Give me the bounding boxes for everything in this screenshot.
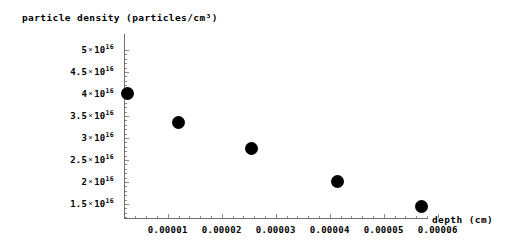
data-point bbox=[415, 200, 428, 213]
particle-density-plot: particle density (particles/cm³) depth (… bbox=[0, 0, 506, 248]
data-point bbox=[121, 87, 134, 100]
plot-data-area bbox=[0, 0, 506, 248]
data-point bbox=[245, 142, 258, 155]
data-point bbox=[331, 175, 344, 188]
data-point bbox=[172, 116, 185, 129]
